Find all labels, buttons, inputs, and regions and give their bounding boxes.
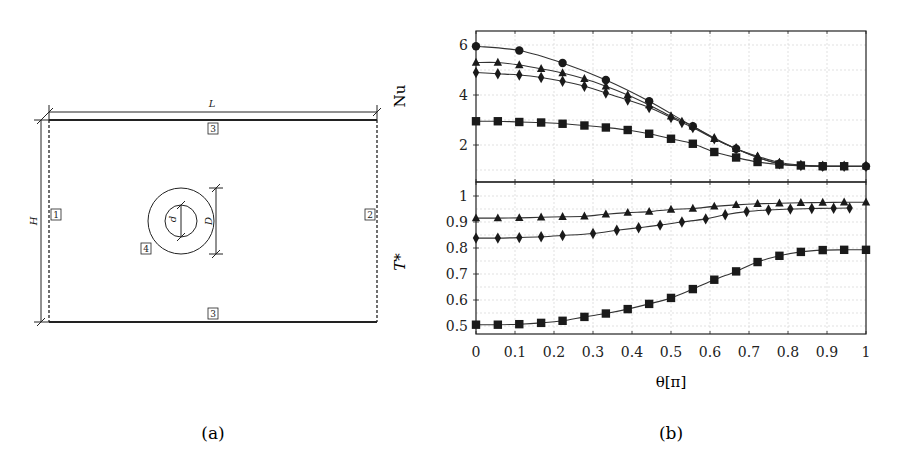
diamond-marker (559, 230, 565, 241)
square-marker (797, 248, 805, 256)
boundary-tag-3-bottom: 3 (208, 308, 218, 319)
triangle-marker (472, 213, 480, 221)
square-marker (753, 258, 761, 266)
svg-text:3: 3 (210, 124, 216, 134)
triangle-marker (494, 58, 502, 66)
square-marker (753, 158, 761, 166)
diamond-marker (863, 161, 869, 172)
x-tick-label: 0.6 (699, 344, 721, 360)
circle-marker (515, 46, 523, 54)
square-marker (732, 267, 740, 275)
triangle-marker (472, 58, 480, 66)
diamond-marker (516, 69, 522, 80)
diamond-marker (722, 209, 728, 220)
y-tick-label: 0.6 (446, 292, 468, 308)
diamond-marker (495, 232, 501, 243)
square-marker (472, 321, 480, 329)
square-marker (775, 160, 783, 168)
triangle-marker (840, 198, 848, 206)
diamond-marker (559, 76, 565, 87)
boundary-tag-3-top: 3 (208, 123, 218, 134)
square-marker (580, 313, 588, 321)
diamond-marker (679, 216, 685, 227)
triangle-marker (732, 200, 740, 208)
square-marker (602, 123, 610, 131)
square-marker (558, 120, 566, 128)
diamond-marker (703, 213, 709, 224)
diamond-marker (614, 225, 620, 236)
y-axis-label-nu: Nu (391, 84, 409, 107)
domain-schematic (34, 105, 381, 326)
diamond-marker (473, 232, 479, 243)
svg-text:1: 1 (53, 210, 59, 220)
triangle-marker (819, 198, 827, 206)
svg-text:4: 4 (143, 244, 149, 254)
square-marker (645, 130, 653, 138)
y-tick-label: 0.7 (446, 266, 468, 282)
triangle-marker (775, 199, 783, 207)
square-marker (472, 117, 480, 125)
caption-a: (a) (201, 423, 224, 443)
square-marker (494, 117, 502, 125)
x-tick-label: 0.2 (543, 344, 565, 360)
diamond-marker (668, 112, 674, 123)
square-marker (689, 140, 697, 148)
square-marker (710, 276, 718, 284)
figure: L H d D 1 2 3 3 4 246 0.50.60.70.80.9100… (0, 0, 903, 468)
square-marker (689, 285, 697, 293)
triangle-marker (753, 199, 761, 207)
y-tick-label: 6 (459, 37, 468, 53)
triangle-marker (558, 212, 566, 220)
ticks (473, 182, 866, 334)
y-tick-label: 0.9 (446, 214, 468, 230)
caption-b: (b) (659, 423, 683, 443)
series-diamond (473, 202, 853, 244)
square-marker (667, 294, 675, 302)
y-tick-label: 0.8 (446, 240, 468, 256)
boundary-tag-2: 2 (365, 209, 375, 220)
diamond-marker (635, 222, 641, 233)
x-tick-label: 0.5 (660, 344, 682, 360)
nusselt-plot: 246 (459, 31, 870, 182)
diamond-marker (590, 228, 596, 239)
circle-marker (472, 42, 480, 50)
triangle-marker (537, 213, 545, 221)
triangle-marker (515, 213, 523, 221)
square-marker (862, 246, 870, 254)
temperature-plot: 0.50.60.70.80.9100.10.20.30.40.50.60.70.… (446, 182, 871, 360)
square-marker (602, 309, 610, 317)
x-tick-label: 0.9 (816, 344, 838, 360)
svg-text:3: 3 (210, 309, 216, 319)
square-marker (819, 162, 827, 170)
triangle-marker (494, 213, 502, 221)
y-tick-label: 0.5 (446, 318, 468, 334)
series-square (472, 117, 849, 170)
x-tick-label: 0.7 (738, 344, 760, 360)
label-D: D (203, 217, 214, 226)
triangle-marker (862, 198, 870, 206)
svg-text:2: 2 (367, 210, 373, 220)
y-axis-label-tstar: T* (391, 253, 409, 271)
diamond-marker (657, 219, 663, 230)
diamond-marker (516, 232, 522, 243)
grid (476, 182, 866, 334)
x-axis-label: θ[π] (656, 373, 687, 391)
circle-marker (558, 59, 566, 67)
diamond-marker (787, 203, 793, 214)
y-tick-label: 1 (459, 188, 468, 204)
series-line (476, 121, 844, 166)
square-marker (624, 305, 632, 313)
x-tick-label: 1 (862, 344, 871, 360)
diamond-marker (538, 72, 544, 83)
square-marker (667, 135, 675, 143)
diamond-marker (830, 203, 836, 214)
square-marker (645, 300, 653, 308)
label-d: d (167, 216, 178, 222)
diamond-marker (581, 81, 587, 92)
boundary-tag-1: 1 (51, 209, 61, 220)
square-marker (515, 118, 523, 126)
x-tick-label: 0.4 (621, 344, 643, 360)
schematic-labels: L H d D (28, 98, 216, 226)
square-marker (819, 246, 827, 254)
square-marker (515, 320, 523, 328)
